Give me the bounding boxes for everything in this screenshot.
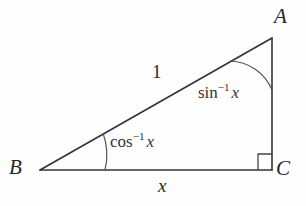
angle-label-at-a: sin−1x <box>198 82 239 101</box>
angle-b-variable: x <box>146 132 154 151</box>
hypotenuse-line <box>40 38 272 170</box>
angle-b-function: cos <box>110 132 133 151</box>
triangle-drawing <box>0 0 306 206</box>
angle-label-at-b: cos−1x <box>110 131 154 150</box>
geometry-figure: A B C 1 x sin−1x cos−1x <box>0 0 306 206</box>
vertex-label-b: B <box>9 157 22 178</box>
angle-a-function: sin <box>198 83 218 102</box>
angle-a-variable: x <box>232 83 240 102</box>
side-label-base: x <box>158 176 166 195</box>
vertex-label-c: C <box>276 158 290 179</box>
angle-b-superscript: −1 <box>133 130 145 142</box>
side-label-hypotenuse: 1 <box>152 62 162 81</box>
angle-a-superscript: −1 <box>218 81 230 93</box>
right-angle-marker-icon <box>258 154 272 170</box>
vertex-label-a: A <box>274 6 287 27</box>
angle-arc-at-b <box>103 133 107 170</box>
